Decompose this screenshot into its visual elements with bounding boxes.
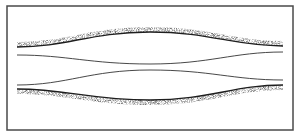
upper-inner-line [17,52,283,64]
frame-border [7,6,293,130]
lower-inner-line [17,70,283,85]
channel-diagram [0,0,299,137]
